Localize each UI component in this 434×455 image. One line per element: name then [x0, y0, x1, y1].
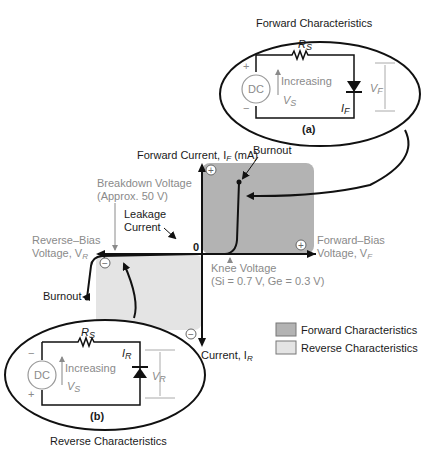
svg-text:+: +	[28, 388, 34, 400]
minus-sign-icon: −	[100, 258, 110, 269]
plus-sign-icon: +	[296, 240, 306, 251]
knee-label-2: (Si = 0.7 V, Ge = 0.3 V)	[211, 275, 324, 287]
burnout-reverse-point	[85, 296, 90, 301]
svg-text:−: −	[243, 102, 249, 114]
svg-text:(a): (a)	[302, 123, 316, 135]
breakdown-label-1: Breakdown Voltage	[97, 177, 192, 189]
x-positive-label-2: Voltage, VF	[317, 247, 373, 261]
svg-text:Increasing: Increasing	[65, 362, 116, 374]
legend-label-reverse: Reverse Characteristics	[301, 342, 418, 354]
legend: Forward Characteristics Reverse Characte…	[276, 323, 418, 354]
svg-text:+: +	[208, 165, 214, 176]
svg-text:RS: RS	[298, 38, 312, 52]
plus-sign-icon: +	[206, 165, 216, 176]
legend-swatch-forward	[276, 323, 296, 336]
svg-text:−: −	[102, 258, 108, 269]
origin-label: 0	[193, 241, 199, 253]
x-negative-label-2: Voltage, VR	[32, 247, 88, 261]
forward-circuit-title: Forward Characteristics	[256, 17, 373, 29]
burnout-reverse-label: Burnout	[43, 290, 82, 302]
legend-swatch-reverse	[276, 341, 296, 354]
svg-text:(b): (b)	[90, 410, 104, 422]
y-positive-label: Forward Current, IF (mA)	[137, 149, 258, 163]
svg-text:Increasing: Increasing	[281, 75, 332, 87]
knee-label-1: Knee Voltage	[211, 262, 276, 274]
x-positive-label-1: Forward–Bias	[317, 234, 385, 246]
reverse-region	[96, 254, 202, 330]
svg-text:DC: DC	[34, 369, 50, 381]
reverse-circuit-title: Reverse Characteristics	[50, 435, 167, 447]
svg-text:+: +	[298, 240, 304, 251]
diode-characteristics-diagram: + + − − Forward Current, IF (mA) Reverse…	[0, 0, 434, 455]
breakdown-label-2: (Approx. 50 V)	[97, 190, 168, 202]
legend-label-forward: Forward Characteristics	[301, 324, 418, 336]
burnout-forward-point	[237, 180, 242, 185]
svg-text:−: −	[28, 347, 34, 359]
burnout-forward-label: Burnout	[253, 144, 292, 156]
svg-text:DC: DC	[248, 83, 264, 95]
leakage-label-2: Current	[124, 221, 161, 233]
svg-text:+: +	[243, 60, 249, 72]
svg-text:−: −	[188, 329, 194, 340]
x-negative-label-1: Reverse–Bias	[32, 234, 101, 246]
leakage-label-1: Leakage	[124, 208, 166, 220]
minus-sign-icon: −	[186, 329, 196, 340]
